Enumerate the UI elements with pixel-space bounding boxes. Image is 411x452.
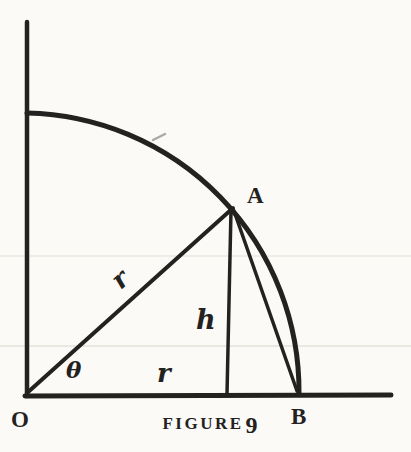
x-axis-line xyxy=(25,395,391,396)
stray-ink-mark xyxy=(153,134,165,140)
figure-caption: FIGURE9 xyxy=(140,408,280,435)
figure-caption-word: FIGURE xyxy=(162,414,243,433)
label-angle-theta: θ xyxy=(66,358,81,381)
label-point-O: O xyxy=(11,408,29,431)
quarter-circle-arc xyxy=(27,113,299,393)
label-point-A: A xyxy=(247,184,264,207)
label-base-r: r xyxy=(157,360,171,386)
chord-line-AB xyxy=(234,211,297,391)
figure-caption-number: 9 xyxy=(246,412,258,438)
label-point-B: B xyxy=(291,405,306,428)
figure-geometry-canvas xyxy=(0,0,411,452)
label-height-h: h xyxy=(196,306,216,333)
height-line-from-A xyxy=(227,210,231,394)
radius-line-OA xyxy=(27,208,233,393)
scanned-book-figure: O A B θ r h r FIGURE9 xyxy=(0,0,411,452)
